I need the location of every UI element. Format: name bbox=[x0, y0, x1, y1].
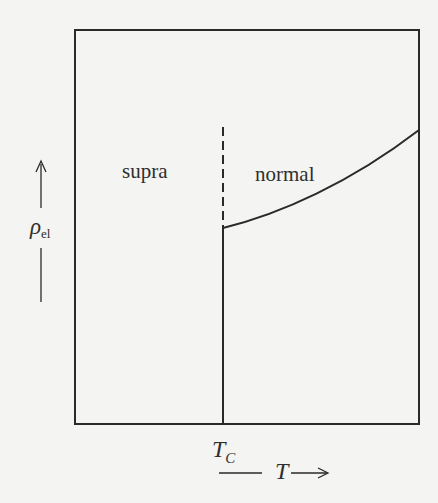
tc-subscript: C bbox=[225, 450, 235, 466]
tc-symbol: T bbox=[212, 436, 225, 462]
region-label-supra: supra bbox=[122, 159, 168, 184]
resistivity-curve bbox=[223, 130, 419, 228]
region-label-normal: normal bbox=[255, 162, 314, 187]
y-axis-subscript: el bbox=[41, 226, 50, 241]
diagram-canvas bbox=[0, 0, 438, 503]
tc-label: TC bbox=[212, 436, 235, 467]
x-axis-label: T bbox=[275, 458, 288, 485]
plot-frame bbox=[75, 30, 419, 424]
y-axis-label: ρel bbox=[30, 214, 50, 242]
y-axis-symbol: ρ bbox=[30, 214, 41, 239]
